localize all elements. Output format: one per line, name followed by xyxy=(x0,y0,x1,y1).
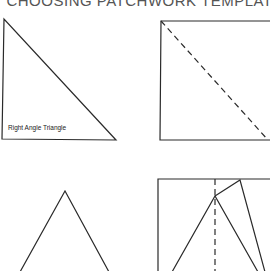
right-angle-triangle-label: Right Angle Triangle xyxy=(8,124,66,131)
square-diagonal-template xyxy=(160,21,270,140)
rectangle-triangle-construction-template xyxy=(158,179,270,271)
templates-diagram xyxy=(0,0,270,271)
right-angle-triangle-template xyxy=(2,19,116,140)
isosceles-triangle-template xyxy=(20,191,109,271)
